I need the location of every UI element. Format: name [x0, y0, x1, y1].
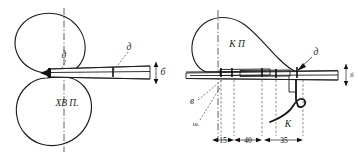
left-thickness-label: б	[161, 67, 167, 77]
left-thickness-arrow-up-icon	[154, 62, 159, 67]
right-thickness-arrow-down-icon	[344, 81, 348, 86]
left-inner-label: д	[62, 50, 67, 60]
left-view-group: д д ХВ П. б	[15, 8, 167, 152]
right-apex-leader	[298, 57, 312, 70]
dim-value-15: 15	[219, 136, 227, 145]
left-lower-lobe-outline	[16, 77, 91, 146]
dim-arrow-40-left-icon	[234, 138, 240, 142]
dim-arrow-35-right-icon	[297, 138, 303, 142]
left-profile-label: ХВ П.	[54, 98, 78, 108]
right-hook-label: К	[284, 119, 292, 129]
dim-arrow-15-left-icon	[212, 138, 218, 142]
right-thickness-arrow-up-icon	[344, 64, 348, 69]
diagram-svg: д д ХВ П. б	[0, 0, 358, 160]
right-view-group: д К П в ш. К	[186, 10, 354, 145]
dim-arrow-15-right-icon	[228, 138, 234, 142]
dim-arrow-40-right-icon	[256, 138, 262, 142]
right-thickness-label: б	[350, 71, 354, 78]
dim-value-40: 40	[244, 136, 252, 145]
right-lower-left-second-label: ш.	[193, 120, 200, 127]
dim-value-35: 35	[280, 136, 288, 145]
left-outer-label: д	[127, 42, 132, 52]
right-v-label-leader	[198, 80, 222, 100]
right-apex-label: д	[314, 47, 319, 57]
right-profile-label: К П	[228, 39, 246, 49]
technical-diagram-canvas: д д ХВ П. б	[0, 0, 358, 160]
right-lower-left-label: в	[190, 96, 194, 106]
left-thickness-arrow-down-icon	[154, 79, 159, 84]
right-hook-detail	[270, 80, 305, 122]
left-root-arrow-icon	[40, 69, 51, 78]
left-upper-lobe-outline	[15, 13, 85, 74]
dim-arrow-35-left-icon	[264, 138, 270, 142]
dimension-chain: 15 40 35	[212, 136, 303, 145]
